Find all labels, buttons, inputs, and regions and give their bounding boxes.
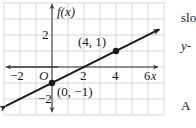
origin-label: O — [39, 68, 49, 83]
y-tick-label: 2 — [42, 27, 49, 42]
point-label: (4, 1) — [78, 34, 106, 49]
y-tick-label: −2 — [38, 91, 52, 106]
x-axis-label: x — [150, 69, 157, 83]
data-point — [49, 80, 55, 86]
x-tick-label: −2 — [10, 68, 24, 83]
y-intercept-text: y- — [181, 38, 191, 54]
function-graph: −22462−2Oxf(x)(0, −1)(4, 1) — [0, 0, 170, 128]
y-axis-label: f(x) — [57, 4, 75, 19]
x-tick-label: 4 — [112, 68, 119, 83]
answer-text: A — [181, 98, 190, 114]
data-point — [113, 48, 119, 54]
x-tick-label: 2 — [80, 68, 87, 83]
point-label: (0, −1) — [57, 84, 93, 99]
x-tick-label: 6 — [144, 68, 151, 83]
slope-text: slo — [181, 10, 196, 26]
